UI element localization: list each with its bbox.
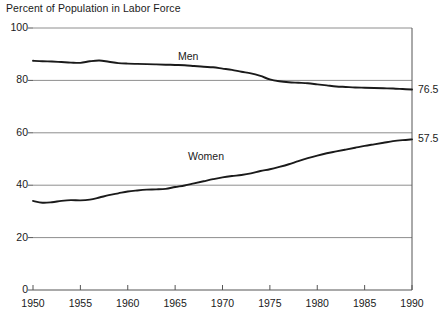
x-tick-label-1960: 1960 (108, 297, 148, 309)
y-tick-label-40: 40 (2, 178, 28, 190)
series-lines (33, 60, 412, 202)
labor-force-chart: Percent of Population in Labor Force 020… (0, 0, 445, 320)
y-tick-label-100: 100 (2, 21, 28, 33)
series-annotation-women: Women (188, 150, 224, 162)
x-tick-label-1980: 1980 (297, 297, 337, 309)
series-line-women (33, 139, 412, 202)
y-tick-label-60: 60 (2, 126, 28, 138)
x-tick-label-1950: 1950 (13, 297, 53, 309)
y-tick-label-0: 0 (2, 283, 28, 295)
x-tick-label-1970: 1970 (203, 297, 243, 309)
series-annotation-men: Men (178, 50, 198, 62)
x-tick-label-1975: 1975 (250, 297, 290, 309)
x-tick-label-1965: 1965 (155, 297, 195, 309)
end-label-men: 76.5 (418, 83, 438, 95)
series-line-men (33, 60, 412, 89)
end-label-women: 57.5 (418, 132, 438, 144)
x-tick-label-1955: 1955 (60, 297, 100, 309)
y-tick-label-20: 20 (2, 231, 28, 243)
x-tick-label-1990: 1990 (392, 297, 432, 309)
gridlines (33, 28, 412, 238)
x-tick-label-1985: 1985 (345, 297, 385, 309)
y-tick-label-80: 80 (2, 73, 28, 85)
